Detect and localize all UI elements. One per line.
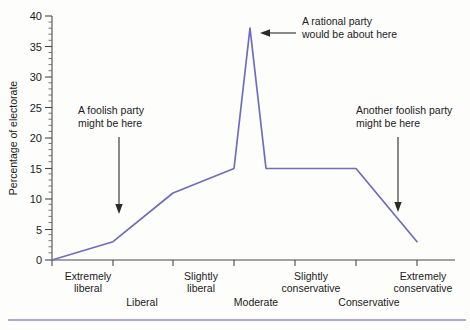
x-axis: Extremely liberal Slightly liberal Sligh… [52,260,455,308]
annotation-left-line1: A foolish party [78,104,145,116]
x-tick-label-slightly-conservative-line1: Slightly [294,270,329,282]
x-tick-label-extremely-conservative-line2: conservative [394,282,453,294]
annotation-left-arrow-head-icon [115,204,122,214]
x-tick-label-slightly-liberal-line2: liberal [187,282,215,294]
x-tick-label-slightly-conservative-line2: conservative [282,282,341,294]
x-tick-label-extremely-liberal-line2: liberal [74,282,102,294]
x-tick-label-liberal: Liberal [126,296,158,308]
x-tick-label-extremely-conservative-line1: Extremely [400,270,447,282]
annotation-right-line1: Another foolish party [356,104,453,116]
y-tick-label-30: 30 [30,71,42,83]
annotation-foolish-party-right: Another foolish party might be here [356,104,453,212]
annotation-center-line2: would be about here [301,28,397,40]
y-tick-label-20: 20 [30,132,42,144]
y-tick-label-0: 0 [36,254,42,266]
electorate-distribution-chart: 40 35 30 25 20 15 10 5 0 Percentage of e… [0,0,470,330]
y-tick-label-15: 15 [30,163,42,175]
y-tick-label-35: 35 [30,41,42,53]
series-line [52,28,417,260]
x-axis-ticks [52,260,417,266]
annotation-center-arrow-head-icon [260,29,270,36]
y-tick-label-5: 5 [36,224,42,236]
annotation-right-arrow-head-icon [394,202,401,212]
annotation-left-line2: might be here [78,117,142,129]
annotation-foolish-party-left: A foolish party might be here [78,104,145,214]
y-tick-label-40: 40 [30,10,42,22]
y-axis: 40 35 30 25 20 15 10 5 0 Percentage of e… [7,10,52,266]
annotation-right-line2: might be here [356,117,420,129]
y-tick-label-25: 25 [30,102,42,114]
x-tick-label-moderate: Moderate [234,296,279,308]
x-tick-label-conservative: Conservative [338,296,399,308]
y-axis-title: Percentage of electorate [7,81,19,196]
annotation-rational-party: A rational party would be about here [260,15,397,40]
annotation-center-line1: A rational party [302,15,373,27]
x-tick-label-extremely-liberal-line1: Extremely [65,270,112,282]
y-tick-label-10: 10 [30,193,42,205]
x-tick-label-slightly-liberal-line1: Slightly [184,270,219,282]
data-series-percentage-of-electorate [52,28,417,260]
